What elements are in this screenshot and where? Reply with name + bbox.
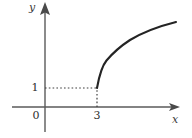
function-curve <box>97 22 176 88</box>
graph-figure: y x 0 1 3 <box>0 0 192 138</box>
x-axis-label: x <box>172 114 178 125</box>
y-axis-label: y <box>29 2 35 13</box>
x-tick-label-3: 3 <box>91 110 103 121</box>
origin-tick-label: 0 <box>31 110 41 121</box>
y-tick-label-1: 1 <box>30 82 40 93</box>
